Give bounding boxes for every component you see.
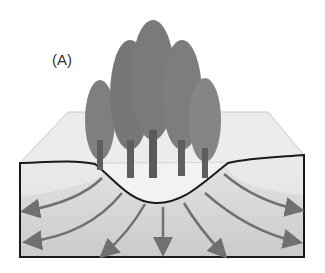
trees — [85, 20, 221, 178]
diagram — [0, 0, 325, 273]
